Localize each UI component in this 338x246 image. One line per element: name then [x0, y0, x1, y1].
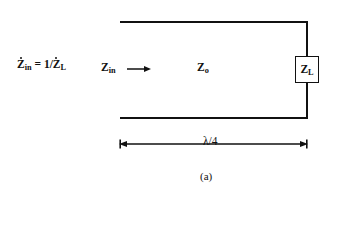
- equals-one-over: = 1/: [32, 58, 53, 70]
- z-subscript-load: L: [61, 63, 67, 72]
- z-dot-symbol-input: Z: [17, 59, 25, 71]
- transmission-line-top-conductor: [120, 21, 308, 23]
- zl-symbol: Z: [300, 63, 308, 75]
- z-subscript-input: in: [25, 63, 32, 72]
- load-impedance-box: ZL: [295, 56, 319, 83]
- zo-symbol: Z: [197, 61, 205, 73]
- zin-subscript: in: [109, 66, 116, 75]
- zin-symbol: Z: [101, 61, 109, 73]
- load-impedance-label: ZL: [300, 64, 313, 76]
- input-impedance-label: Zin: [101, 62, 116, 74]
- input-impedance-relation: Zin = 1/ZL: [17, 59, 66, 71]
- zl-subscript: L: [308, 68, 314, 77]
- quarter-wavelength-label: λ/4: [198, 136, 223, 148]
- zo-subscript: o: [205, 66, 209, 75]
- z-dot-symbol-load: Z: [53, 59, 61, 71]
- z-symbol-load: Z: [53, 58, 61, 70]
- characteristic-impedance-label: Zo: [197, 62, 209, 74]
- transmission-line-bottom-conductor: [120, 117, 308, 119]
- right-arrow-icon: [127, 66, 151, 72]
- transmission-line-figure: ZL Zin = 1/ZL Zin Zo λ/4 (a): [0, 0, 338, 246]
- figure-caption: (a): [200, 171, 212, 182]
- arrow-layer: [0, 0, 338, 246]
- z-symbol-input: Z: [17, 58, 25, 70]
